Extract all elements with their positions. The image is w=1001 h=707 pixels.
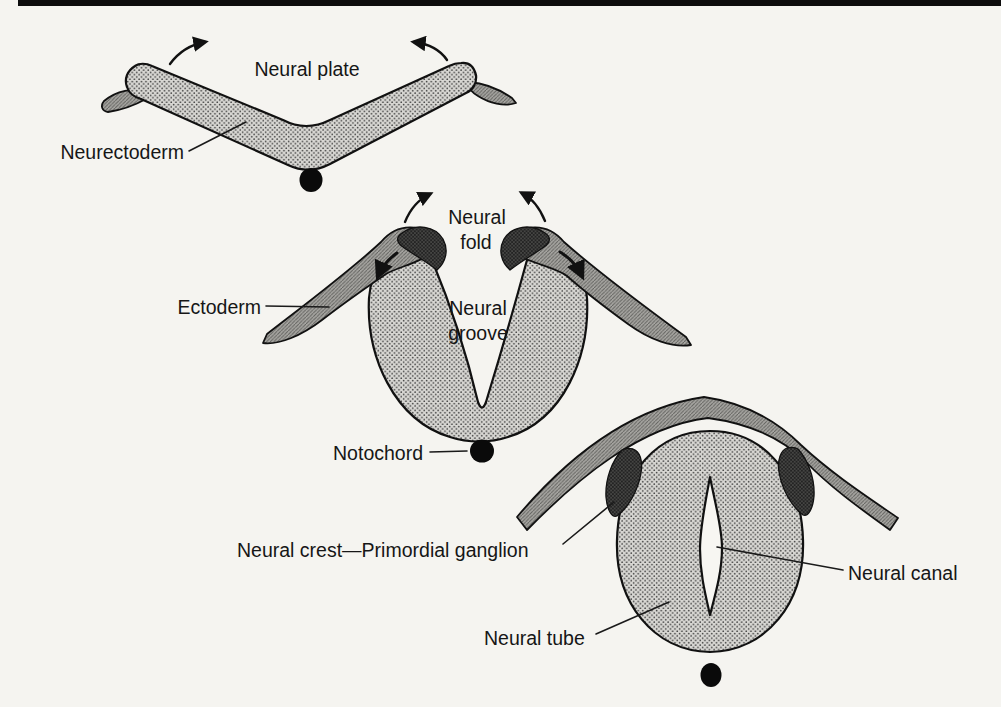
neural-fold-label-line1: Neural: [448, 206, 505, 228]
top-rule: [18, 0, 1001, 6]
neural-tube-label: Neural tube: [484, 627, 585, 649]
notochord-dot: [701, 663, 722, 687]
neurulation-diagram: Neural plate Neurectoderm Neural fold Ne…: [0, 0, 1001, 707]
neural-groove-label-line2: groove: [448, 322, 508, 344]
ectoderm-leader-line: [266, 306, 329, 307]
neural-crest-label: Neural crest—Primordial ganglion: [237, 539, 529, 561]
neural-canal-label: Neural canal: [848, 562, 957, 584]
neural-groove-label-line1: Neural: [449, 297, 506, 319]
neural-fold-label-line2: fold: [460, 231, 491, 253]
ectoderm-label: Ectoderm: [178, 296, 261, 318]
notochord-leader-line: [430, 451, 467, 452]
notochord-dot: [470, 440, 494, 463]
neural-plate-label: Neural plate: [254, 58, 359, 80]
notochord-label: Notochord: [333, 442, 423, 464]
neurectoderm-label: Neurectoderm: [60, 141, 184, 163]
figure-page: Neural plate Neurectoderm Neural fold Ne…: [0, 0, 1001, 707]
notochord-dot: [300, 168, 323, 192]
